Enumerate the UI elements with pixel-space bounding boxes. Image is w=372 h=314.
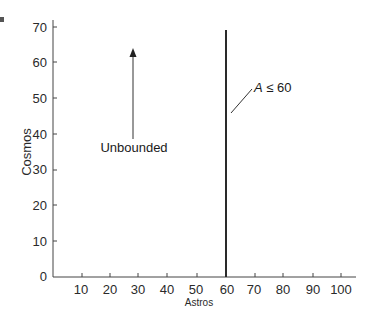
x-ticks	[82, 273, 341, 277]
y-tick-label: 50	[33, 91, 47, 106]
x-axis-label: Astros	[185, 297, 213, 308]
x-tick-label: 60	[220, 282, 234, 297]
x-tick-label: 20	[103, 282, 117, 297]
y-tick-labels: 0 10 20 30 40 50 60 70	[33, 20, 47, 284]
x-tick-label: 70	[247, 282, 261, 297]
y-ticks	[53, 27, 57, 241]
constraint-leader-line	[231, 89, 252, 113]
y-tick-label: 20	[33, 198, 47, 213]
x-tick-label: 90	[306, 282, 320, 297]
y-tick-label: 10	[33, 234, 47, 249]
y-axis-label: Cosmos	[19, 128, 34, 176]
y-tick-label: 40	[33, 127, 47, 142]
unbounded-label: Unbounded	[100, 140, 167, 155]
corner-mark	[0, 17, 4, 22]
x-tick-label: 100	[330, 282, 352, 297]
y-tick-label: 70	[33, 20, 47, 35]
chart: 0 10 20 30 40 50 60 70 10 20 30 40 50 60…	[0, 0, 372, 314]
x-tick-label: 30	[131, 282, 145, 297]
x-tick-labels: 10 20 30 40 50 60 70 80 90 100	[74, 282, 352, 297]
y-tick-label: 0	[40, 269, 47, 284]
x-tick-label: 10	[74, 282, 88, 297]
arrow-up-icon	[130, 48, 137, 57]
x-tick-label: 40	[160, 282, 174, 297]
y-tick-label: 60	[33, 55, 47, 70]
constraint-label: A ≤ 60	[253, 80, 292, 95]
y-tick-label: 30	[33, 162, 47, 177]
x-tick-label: 50	[189, 282, 203, 297]
x-tick-label: 80	[276, 282, 290, 297]
